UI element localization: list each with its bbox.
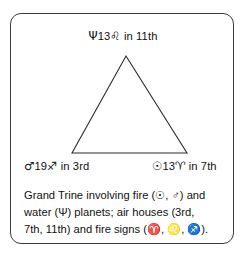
mars-house: in 3rd — [58, 160, 90, 172]
figure-root: Ψ13♌ in 11th ♂19♐ in 3rd ☉13♈ in 7th Gra… — [0, 0, 246, 258]
neptune-glyph: Ψ — [89, 29, 98, 43]
mars-glyph: ♂ — [24, 159, 34, 173]
triangle-outline — [72, 56, 187, 153]
figure-caption: Grand Trine involving fire (☉, ♂) and wa… — [24, 187, 220, 238]
sagittarius-glyph: ♐ — [47, 159, 57, 173]
leo-glyph: ♌ — [110, 29, 120, 43]
node-label-mars: ♂19♐ in 3rd — [24, 159, 89, 173]
mars-degree: 19 — [34, 160, 47, 172]
caption-line-2: water (Ψ) planets; air houses (3rd, — [24, 204, 220, 221]
sun-house: in 7th — [186, 160, 217, 172]
sun-degree: 13 — [162, 160, 175, 172]
caption-line-1: Grand Trine involving fire (☉, ♂) and — [24, 187, 220, 204]
neptune-house: in 11th — [121, 30, 158, 42]
aries-glyph: ♈ — [175, 159, 185, 173]
node-label-sun: ☉13♈ in 7th — [152, 159, 217, 173]
sun-glyph: ☉ — [152, 159, 162, 173]
neptune-degree: 13 — [98, 30, 111, 42]
caption-line-3: 7th, 11th) and fire signs (♈, ♌, ♐). — [24, 221, 220, 238]
node-label-neptune: Ψ13♌ in 11th — [0, 29, 246, 43]
